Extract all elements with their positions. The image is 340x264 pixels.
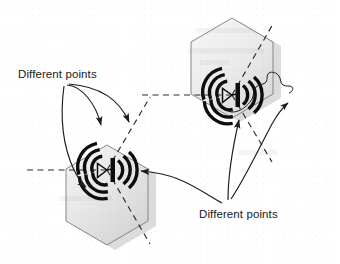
cellular-sector-diagram: Different points Different points bbox=[0, 0, 340, 264]
top-left-label: Different points bbox=[18, 68, 97, 80]
arrow-to-left-upper-arcs bbox=[67, 85, 101, 125]
antenna-bar bbox=[236, 83, 241, 107]
antenna-bar bbox=[111, 158, 116, 182]
bottom-right-label: Different points bbox=[199, 208, 278, 220]
figure-canvas: Different points Different points bbox=[0, 0, 340, 264]
